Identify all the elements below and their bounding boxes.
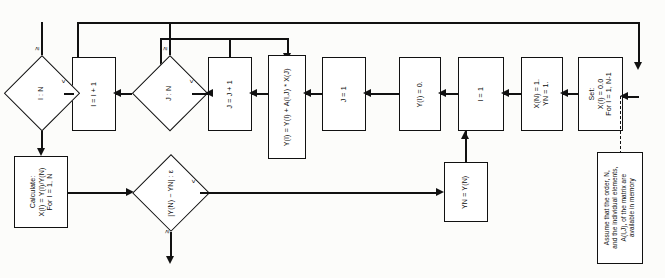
arrowhead-into-start-set: [620, 92, 628, 100]
node-start-set-text-wrap: Set: X(I) = 0.0 For I = 1, N-1: [579, 58, 622, 130]
node-j-init-text-wrap: J = 1: [323, 58, 365, 130]
node-accumulate-label: Y(I) = Y(I) + A(I,J) * X(J): [283, 68, 292, 146]
branch-label-i-test-ge: ≥: [35, 45, 39, 52]
connector-note-dashed-vertical: [620, 96, 621, 154]
node-y-zero-label: Y(I) = 0.: [416, 81, 425, 107]
node-calculate: Calculate: X(I) = Y(I)/Y(N) For I = 1, N: [14, 156, 68, 228]
node-yn-update-label: YN = Y(N): [462, 175, 471, 208]
arrowhead-into-i-init: [501, 89, 509, 97]
arrowhead-into-j-init: [363, 89, 371, 97]
node-yn-update: YN = Y(N): [444, 162, 488, 222]
arrowhead-exit: [166, 256, 174, 264]
node-i-test-label: I : N: [38, 86, 47, 100]
arrowhead-outer-loop-return: [634, 62, 642, 70]
node-i-test: I : N: [4, 55, 80, 131]
arrowhead-into-accumulate-side: [303, 89, 311, 97]
node-i-init-text-wrap: I = 1: [459, 58, 503, 130]
arrowhead-into-set-xn-yn: [560, 89, 568, 97]
node-start-set: Set: X(I) = 0.0 For I = 1, N-1: [578, 57, 623, 131]
node-j-test: J : N: [132, 55, 208, 131]
arrowhead-into-j-incr: [249, 89, 257, 97]
node-j-test-label: J : N: [166, 85, 175, 100]
node-j-incr-label: J = J + 1: [226, 80, 235, 108]
node-y-zero-text-wrap: Y(I) = 0.: [400, 58, 440, 130]
node-yn-update-text-wrap: YN = Y(N): [445, 163, 487, 221]
node-start-set-label: Set: X(I) = 0.0 For I = 1, N-1: [588, 72, 614, 115]
connector-itest-ge-up: [41, 22, 43, 55]
flowchart-canvas: Set: X(I) = 0.0 For I = 1, N-1 X(N) = 1.…: [0, 0, 665, 278]
node-i-incr-label: I = I + 1: [90, 82, 99, 107]
node-j-init-label: J = 1: [340, 86, 349, 102]
node-calculate-label: Calculate: X(I) = Y(I)/Y(N) For I = 1, N: [28, 168, 54, 217]
arrowhead-into-yn-update: [436, 188, 444, 196]
node-accumulate-text-wrap: Y(I) = Y(I) + A(I,J) * X(J): [269, 56, 305, 158]
node-set-xn-yn-label: X(N) = 1. YN = 1.: [533, 79, 550, 108]
node-calculate-text-wrap: Calculate: X(I) = Y(I)/Y(N) For I = 1, N: [15, 157, 67, 227]
branch-label-j-test-ge: ≥: [163, 45, 167, 52]
connector-outer-loop-top: [77, 22, 639, 24]
node-set-xn-yn-text-wrap: X(N) = 1. YN = 1.: [522, 58, 562, 130]
node-accumulate: Y(I) = Y(I) + A(I,J) * X(J): [268, 55, 306, 159]
node-y-zero: Y(I) = 0.: [399, 57, 441, 131]
connector-inner-loop-top: [160, 38, 288, 40]
node-set-xn-yn: X(N) = 1. YN = 1.: [521, 57, 563, 131]
arrowhead-into-i-incr: [113, 89, 121, 97]
node-i-test-text-wrap: I : N: [4, 55, 80, 131]
connector-calculate-to-converge: [68, 192, 130, 194]
node-converge-test: |Y(N) − YN| : ε: [132, 154, 210, 232]
arrowhead-ynupdate-to-iinit: [461, 131, 469, 139]
connector-outer-loop-right: [638, 22, 640, 64]
arrowhead-into-calculate: [37, 148, 45, 156]
annotation-note-text-wrap: Assume that the order, N, and the indivi…: [598, 153, 642, 263]
node-j-incr: J = J + 1: [208, 57, 252, 131]
node-i-init: I = 1: [458, 57, 504, 131]
annotation-note: Assume that the order, N, and the indivi…: [597, 152, 643, 264]
node-converge-test-text-wrap: |Y(N) − YN| : ε: [132, 154, 210, 232]
connector-jincr-to-inner-rail: [229, 38, 231, 57]
arrowhead-into-y-zero: [438, 89, 446, 97]
node-converge-test-label: |Y(N) − YN| : ε: [167, 170, 176, 217]
node-i-init-label: I = 1: [477, 87, 486, 102]
connector-converge-to-ynupdate: [200, 192, 440, 194]
node-j-incr-text-wrap: J = J + 1: [209, 58, 251, 130]
node-j-test-text-wrap: J : N: [132, 55, 208, 131]
annotation-note-label: Assume that the order, N, and the indivi…: [603, 167, 636, 249]
connector-jtest-ge-up: [169, 22, 171, 55]
node-j-init: J = 1: [322, 57, 366, 131]
